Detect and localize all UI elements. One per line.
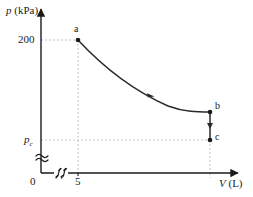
process-arrow-b-to-c [207, 123, 213, 129]
pc-subscript: c [30, 140, 33, 148]
x-tick-label-5: 5 [75, 176, 81, 187]
y-tick-label-200: 200 [18, 34, 35, 45]
y-tick-label-pc: pc [24, 134, 33, 148]
state-point-c [208, 138, 213, 143]
x-axis-unit: (L) [226, 177, 243, 189]
y-axis-break-icon [36, 154, 48, 161]
point-label-b: b [215, 101, 220, 111]
pv-diagram-figure: p (kPa) V (L) 200 pc 0 5 a b c [0, 0, 253, 197]
plot-canvas [0, 0, 253, 197]
x-axis-label: V (L) [219, 178, 243, 189]
x-axis-break-mask [54, 171, 68, 175]
state-point-b [208, 110, 213, 115]
state-point-a [76, 38, 81, 43]
guide-lines [41, 40, 210, 178]
point-label-c: c [215, 132, 219, 142]
y-axis-unit: (kPa) [12, 4, 39, 16]
x-axis-symbol: V [219, 177, 226, 189]
point-label-a: a [74, 24, 78, 34]
origin-label: 0 [30, 176, 36, 187]
y-axis-label: p (kPa) [6, 5, 38, 16]
process-arrow-a-to-b [147, 93, 155, 97]
process-curve-a-to-b [78, 40, 210, 112]
